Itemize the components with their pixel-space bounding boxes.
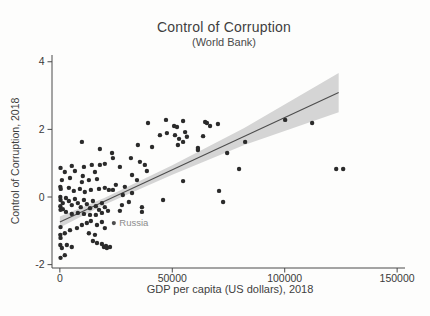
annotation-label: Russia — [119, 217, 149, 228]
data-point — [68, 228, 72, 232]
data-point — [138, 160, 142, 164]
data-point — [82, 212, 86, 216]
data-point — [81, 174, 85, 178]
data-point — [75, 226, 79, 230]
data-point — [243, 140, 247, 144]
data-point — [183, 130, 187, 134]
data-point — [63, 231, 67, 235]
data-point — [121, 193, 125, 197]
data-point — [70, 245, 74, 249]
data-point — [88, 206, 92, 210]
x-tick-label: 100000 — [267, 272, 302, 284]
data-point — [98, 163, 102, 167]
y-tick-label: 2 — [39, 123, 45, 135]
data-point — [216, 122, 220, 126]
data-point — [80, 223, 84, 227]
data-point — [103, 205, 107, 209]
data-point — [127, 200, 131, 204]
data-point — [108, 245, 112, 249]
data-point — [201, 134, 205, 138]
x-tick-label: 0 — [57, 272, 63, 284]
data-point — [73, 197, 77, 201]
data-point — [83, 190, 87, 194]
x-tick-label: 150000 — [380, 272, 415, 284]
data-point — [95, 223, 99, 227]
data-point — [95, 177, 99, 181]
data-point — [97, 187, 101, 191]
data-point — [82, 165, 86, 169]
data-point — [100, 211, 104, 215]
data-point — [93, 170, 97, 174]
data-point — [140, 205, 144, 209]
data-point — [58, 236, 62, 240]
data-point — [72, 189, 76, 193]
data-point — [143, 163, 147, 167]
data-point — [181, 179, 185, 183]
data-point — [80, 140, 84, 144]
data-point — [196, 148, 200, 152]
data-point — [221, 200, 225, 204]
data-point — [164, 118, 168, 122]
data-point — [334, 167, 338, 171]
data-point — [58, 256, 62, 260]
data-point — [59, 187, 63, 191]
data-point — [135, 178, 139, 182]
data-point — [63, 170, 67, 174]
data-point — [91, 199, 95, 203]
data-point — [100, 201, 104, 205]
y-tick-label: 0 — [39, 191, 45, 203]
data-point — [95, 241, 99, 245]
data-point — [177, 137, 181, 141]
data-point — [67, 199, 71, 203]
data-point — [76, 211, 80, 215]
data-point — [100, 242, 104, 246]
data-point — [175, 125, 179, 129]
data-point — [88, 213, 92, 217]
data-point — [106, 209, 110, 213]
data-point — [70, 203, 74, 207]
data-point — [120, 203, 124, 207]
data-point — [103, 162, 107, 166]
data-point — [76, 201, 80, 205]
data-point — [130, 173, 134, 177]
data-point — [161, 198, 165, 202]
data-point — [60, 246, 64, 250]
data-point — [61, 207, 65, 211]
data-point — [90, 163, 94, 167]
y-tick-label: 4 — [39, 55, 45, 67]
data-point — [130, 191, 134, 195]
data-point — [114, 183, 118, 187]
data-point — [85, 202, 89, 206]
figure: Control of Corruption (World Bank) Contr… — [0, 0, 430, 316]
data-point — [150, 145, 154, 149]
data-point — [205, 121, 209, 125]
data-point — [181, 119, 185, 123]
data-point — [94, 204, 98, 208]
data-point — [111, 156, 115, 160]
data-point — [310, 121, 314, 125]
data-point — [146, 121, 150, 125]
data-point — [158, 133, 162, 137]
data-point — [185, 135, 189, 139]
data-point — [85, 221, 89, 225]
data-point — [93, 233, 97, 237]
x-tick-label: 50000 — [158, 272, 187, 284]
data-point — [58, 225, 62, 229]
data-point — [73, 169, 77, 173]
data-point — [104, 244, 108, 248]
data-point — [225, 151, 229, 155]
data-point — [181, 140, 185, 144]
data-point — [283, 118, 287, 122]
data-point — [129, 156, 133, 160]
data-point — [173, 133, 177, 137]
data-point — [78, 187, 82, 191]
data-point — [98, 147, 102, 151]
data-point — [91, 239, 95, 243]
data-point — [237, 167, 241, 171]
data-point — [94, 213, 98, 217]
data-point — [118, 165, 122, 169]
data-point — [63, 253, 67, 257]
data-point — [82, 198, 86, 202]
data-point — [89, 219, 93, 223]
y-tick-label: -2 — [35, 258, 44, 270]
